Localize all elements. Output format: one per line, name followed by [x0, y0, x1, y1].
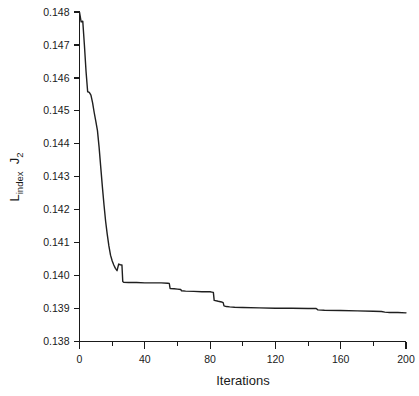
- y-axis-title-base1: L: [7, 194, 22, 201]
- y-tick-label: 0.141: [43, 236, 69, 248]
- y-tick-label: 0.140: [43, 269, 69, 281]
- y-tick-label: 0.142: [43, 203, 69, 215]
- y-tick-label: 0.147: [43, 39, 69, 51]
- y-tick-label: 0.144: [43, 137, 69, 149]
- y-tick-label: 0.139: [43, 302, 69, 314]
- y-tick-label: 0.146: [43, 72, 69, 84]
- x-tick-label: 160: [332, 353, 350, 365]
- x-tick-label: 200: [397, 353, 415, 365]
- y-axis-title-sub1: index: [14, 171, 25, 194]
- y-axis-title-sub2: 2: [14, 153, 25, 158]
- convergence-chart: 0.1380.1390.1400.1410.1420.1430.1440.145…: [0, 0, 419, 396]
- y-tick-label: 0.148: [43, 6, 69, 18]
- y-tick-label: 0.143: [43, 170, 69, 182]
- y-tick-label: 0.138: [43, 335, 69, 347]
- x-tick-label: 120: [267, 353, 285, 365]
- x-tick-label: 40: [139, 353, 151, 365]
- x-tick-label: 0: [77, 353, 83, 365]
- x-axis-title: Iterations: [216, 373, 270, 388]
- y-tick-label: 0.145: [43, 104, 69, 116]
- x-tick-label: 80: [204, 353, 216, 365]
